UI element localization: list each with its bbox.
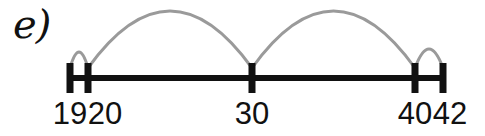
tick-mark-40 <box>412 63 419 93</box>
jump-arc-40-42 <box>415 49 443 68</box>
tick-label-30: 30 <box>235 98 269 129</box>
tick-mark-42 <box>440 63 447 93</box>
tick-mark-19 <box>67 63 74 93</box>
tick-label-40: 40 <box>398 98 432 129</box>
tick-mark-20 <box>85 63 92 93</box>
number-line-axis <box>70 75 443 81</box>
tick-mark-30 <box>249 63 256 93</box>
tick-label-20: 20 <box>88 98 122 129</box>
tick-label-42: 42 <box>433 98 467 129</box>
jump-arc-30-40 <box>252 11 415 68</box>
jump-arc-20-30 <box>88 11 252 68</box>
tick-label-19: 19 <box>53 98 87 129</box>
number-line-figure: e) 19 20 30 40 42 <box>0 0 485 136</box>
jump-arc-group <box>70 11 443 68</box>
